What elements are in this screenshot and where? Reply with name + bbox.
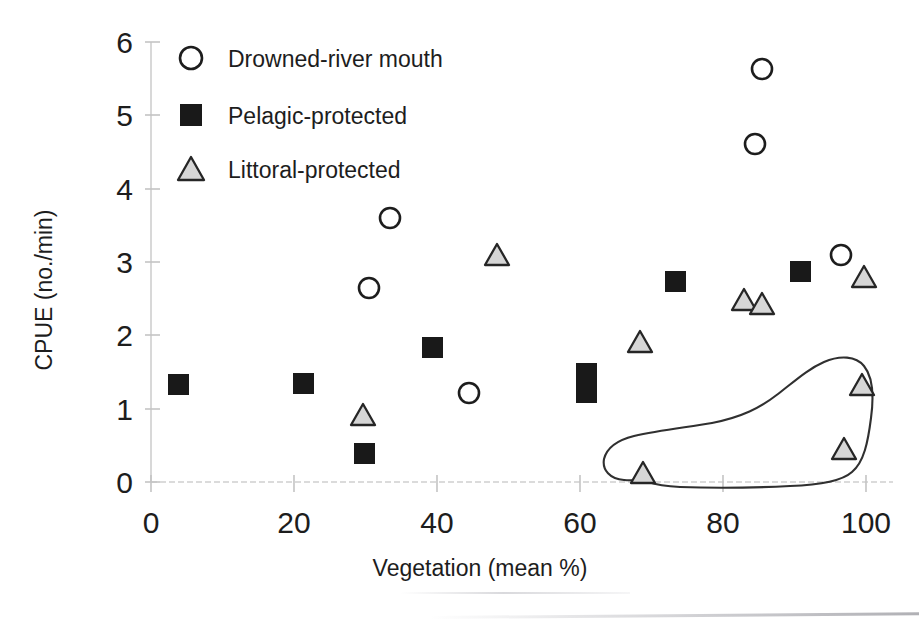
y-axis-tick-labels: 6 5 4 3 2 1 0 — [116, 26, 133, 499]
x-tick-label-80: 80 — [706, 506, 739, 539]
y-tick-label-6: 6 — [116, 26, 133, 59]
legend-label-pelagic-protected: Pelagic-protected — [228, 103, 407, 129]
y-tick-label-1: 1 — [116, 393, 133, 426]
data-point-square — [665, 271, 686, 292]
legend-label-drowned-river-mouth: Drowned-river mouth — [228, 46, 443, 72]
y-tick-label-0: 0 — [116, 466, 133, 499]
data-point-square — [790, 261, 811, 282]
legend-open-circle-icon — [180, 47, 202, 69]
y-tick-label-3: 3 — [116, 246, 133, 279]
legend-entry-pelagic-protected: Pelagic-protected — [180, 103, 407, 129]
data-point-circle — [752, 59, 772, 79]
y-tick-label-4: 4 — [116, 173, 133, 206]
data-point-triangle — [628, 331, 652, 352]
series-pelagic-protected-points — [168, 261, 811, 464]
data-point-circle — [831, 245, 851, 265]
data-point-triangle — [631, 462, 655, 483]
data-point-circle — [745, 134, 765, 154]
data-point-square — [576, 363, 597, 384]
legend-label-littoral-protected: Littoral-protected — [228, 157, 401, 183]
y-axis-title: CPUE (no./min) — [31, 209, 57, 370]
x-axis-tick-labels: 0 20 40 60 80 100 — [143, 506, 891, 539]
chart-legend: Drowned-river mouth Pelagic-protected Li… — [178, 46, 443, 183]
data-point-square — [354, 443, 375, 464]
data-point-square — [168, 374, 189, 395]
x-axis-ticks — [151, 475, 866, 492]
legend-entry-littoral-protected: Littoral-protected — [178, 157, 401, 183]
data-point-triangle — [485, 244, 509, 265]
y-tick-label-2: 2 — [116, 319, 133, 352]
data-point-triangle — [832, 438, 856, 459]
data-point-triangle — [852, 266, 876, 287]
x-tick-label-60: 60 — [563, 506, 596, 539]
x-tick-label-100: 100 — [841, 506, 891, 539]
x-axis-title: Vegetation (mean %) — [373, 555, 588, 581]
y-axis-ticks — [145, 42, 160, 482]
data-point-triangle — [732, 289, 756, 310]
chart-svg: 6 5 4 3 2 1 0 0 20 40 60 80 100 Vegetat — [0, 0, 919, 628]
data-point-square — [293, 373, 314, 394]
legend-entry-drowned-river-mouth: Drowned-river mouth — [180, 46, 443, 72]
data-point-square — [422, 337, 443, 358]
scatter-chart-figure: 6 5 4 3 2 1 0 0 20 40 60 80 100 Vegetat — [0, 0, 919, 628]
x-tick-label-20: 20 — [277, 506, 310, 539]
data-point-square — [576, 382, 597, 403]
y-tick-label-5: 5 — [116, 99, 133, 132]
data-point-circle — [380, 208, 400, 228]
data-point-circle — [359, 278, 379, 298]
x-tick-label-40: 40 — [420, 506, 453, 539]
legend-filled-square-icon — [180, 104, 202, 126]
x-tick-label-0: 0 — [143, 506, 160, 539]
data-point-circle — [459, 383, 479, 403]
legend-filled-triangle-icon — [178, 157, 204, 180]
data-point-triangle — [351, 404, 375, 425]
